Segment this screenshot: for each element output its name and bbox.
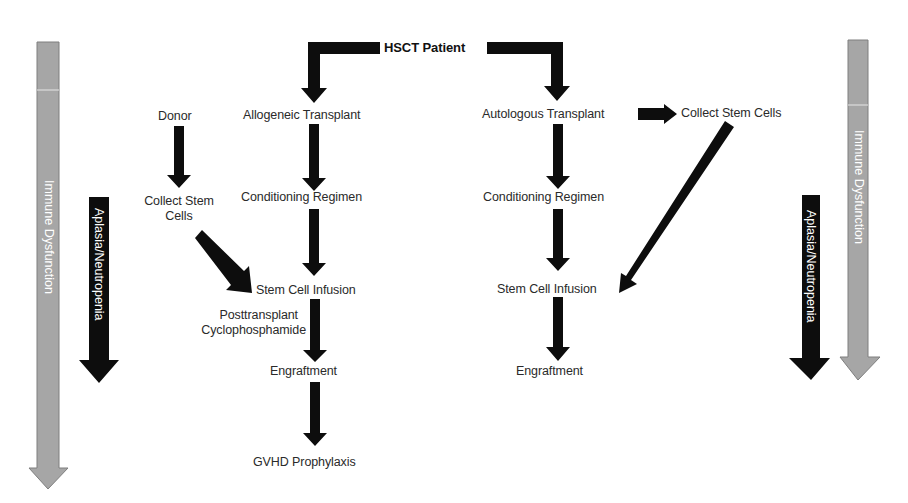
hsct-patient-label: HSCT Patient (384, 40, 465, 55)
aplasia-text-left: Aplasia/Neutropenia (92, 208, 106, 321)
collect-line-1: Collect Stem (136, 194, 222, 209)
arrow-infusion-to-engraftment-auto (546, 297, 570, 361)
arrow-donor-to-collect (167, 126, 191, 188)
engraftment-auto-label: Engraftment (516, 364, 583, 379)
immune-dysfunction-text-right: Immune Dysfunction (852, 130, 866, 244)
elbow-arrow-allogeneic (301, 42, 380, 103)
ptcy-line-1: Posttransplant (176, 308, 306, 323)
stem-cell-infusion-allo-label: Stem Cell Infusion (256, 283, 356, 298)
arrow-collect-to-infusion-auto (619, 121, 734, 293)
collect-stem-cells-auto-label: Collect Stem Cells (681, 106, 781, 121)
allogeneic-transplant-label: Allogeneic Transplant (243, 108, 360, 123)
immune-dysfunction-text-left: Immune Dysfunction (42, 180, 56, 294)
arrow-auto-to-conditioning (546, 124, 570, 189)
gvhd-prophylaxis-label: GVHD Prophylaxis (253, 455, 356, 470)
conditioning-regimen-allo-label: Conditioning Regimen (241, 190, 362, 205)
arrow-infusion-to-engraftment (303, 299, 327, 362)
elbow-arrow-autologous (487, 42, 570, 101)
conditioning-regimen-auto-label: Conditioning Regimen (483, 190, 604, 205)
stem-cell-infusion-auto-label: Stem Cell Infusion (497, 282, 597, 297)
aplasia-text-right: Aplasia/Neutropenia (804, 210, 818, 323)
flow-arrows (0, 0, 908, 503)
arrow-auto-to-collect (638, 104, 677, 124)
donor-label: Donor (158, 109, 192, 124)
arrow-conditioning-to-infusion (302, 209, 326, 276)
arrow-conditioning-to-infusion-auto (546, 209, 570, 271)
ptcy-line-2: Cyclophosphamide (176, 323, 306, 338)
collect-stem-cells-allo-label: Collect Stem Cells (136, 194, 222, 224)
autologous-transplant-label: Autologous Transplant (482, 107, 604, 122)
engraftment-allo-label: Engraftment (270, 364, 337, 379)
arrow-collect-to-infusion-allo (195, 230, 252, 293)
arrow-engraftment-to-gvhd (303, 382, 327, 446)
collect-line-2: Cells (136, 209, 222, 224)
ptcy-label: Posttransplant Cyclophosphamide (176, 308, 306, 338)
arrow-allo-to-conditioning (302, 124, 326, 191)
